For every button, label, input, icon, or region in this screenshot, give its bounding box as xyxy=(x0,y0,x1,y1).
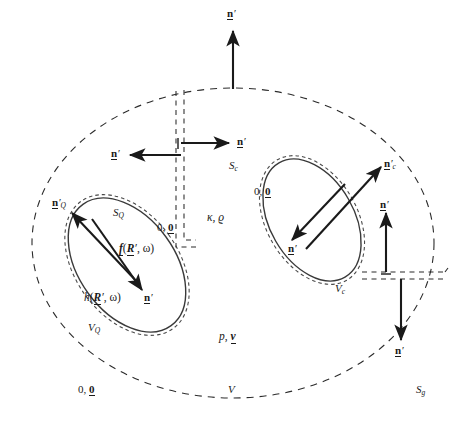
label-normal-c-inward: n′ xyxy=(288,243,297,255)
normal-arrow-channel-up xyxy=(381,213,391,274)
subscript-Q: Q xyxy=(61,201,66,210)
SQ-subscript: Q xyxy=(119,211,124,220)
normal-arrow-c-outward xyxy=(306,167,381,249)
V-symbol: V xyxy=(228,383,235,395)
label-pressure-velocity: p, v xyxy=(219,331,236,344)
diagram-geometry xyxy=(0,0,463,432)
h-omega-symbol: ω xyxy=(110,291,118,303)
label-normal-top: n′ xyxy=(227,8,236,20)
zero-scalar-outer: 0, xyxy=(78,383,86,395)
label-surface-SQ: SQ xyxy=(113,207,124,220)
h-close-paren: ) xyxy=(117,291,121,303)
label-normal-slit-right: n′ xyxy=(237,136,246,148)
kappa-rho-symbol: κ, ϱ xyxy=(207,211,224,223)
zero-scalar-Q: 0, xyxy=(157,221,165,233)
label-volume-VQ: VQ xyxy=(88,322,100,335)
label-normal-channel-down: n′ xyxy=(395,345,404,357)
normal-arrow-slit-right xyxy=(178,138,229,149)
inclusion-Vc-shape xyxy=(238,137,386,303)
outer-boundary-ellipse xyxy=(32,88,434,398)
label-surface-Sg: Sg xyxy=(416,384,425,397)
label-source-h: h(R′, ω) xyxy=(84,292,121,305)
zero-vector-outer: 0 xyxy=(89,384,95,396)
Sg-subscript: g xyxy=(422,388,426,397)
label-normal-slit-left: n′ xyxy=(111,148,120,160)
label-source-f: f(R′, ω) xyxy=(119,243,154,256)
label-zero-pair-c: 0, 0 xyxy=(254,186,271,198)
v-vector-symbol: v xyxy=(231,331,236,344)
label-normal-Q-inward: n′ xyxy=(144,292,153,304)
VQ-subscript: Q xyxy=(95,326,100,335)
label-normal-c-outward: n′c xyxy=(384,158,396,171)
f-close-paren: ) xyxy=(150,242,154,254)
scattering-geometry-figure: n′ n′ n′ n′Q n′ n′c n′ n′ n′ SQ Sc Sg xyxy=(0,0,463,432)
subscript-c: c xyxy=(393,162,396,171)
horizontal-slit-channel xyxy=(362,268,448,279)
label-zero-pair-outer: 0, 0 xyxy=(78,384,95,396)
zero-vector-c: 0 xyxy=(265,186,271,198)
Sc-subscript: c xyxy=(235,164,238,173)
label-normal-channel-up: n′ xyxy=(380,199,389,211)
zero-scalar-c: 0, xyxy=(254,185,262,197)
label-volume-V: V xyxy=(228,384,235,395)
vertical-slit-channel xyxy=(176,90,196,247)
label-normal-Q-outward: n′Q xyxy=(52,197,66,210)
label-surface-Sc: Sc xyxy=(229,160,238,173)
Vc-symbol: V xyxy=(335,282,342,294)
zero-vector-Q: 0 xyxy=(168,222,174,234)
normal-arrow-c-inward xyxy=(292,184,345,240)
label-volume-Vc: Vc xyxy=(335,283,345,296)
VQ-symbol: V xyxy=(88,321,95,333)
Vc-subscript: c xyxy=(342,287,345,296)
label-kappa-rho: κ, ϱ xyxy=(207,212,224,224)
label-zero-pair-Q: 0, 0 xyxy=(157,222,174,234)
